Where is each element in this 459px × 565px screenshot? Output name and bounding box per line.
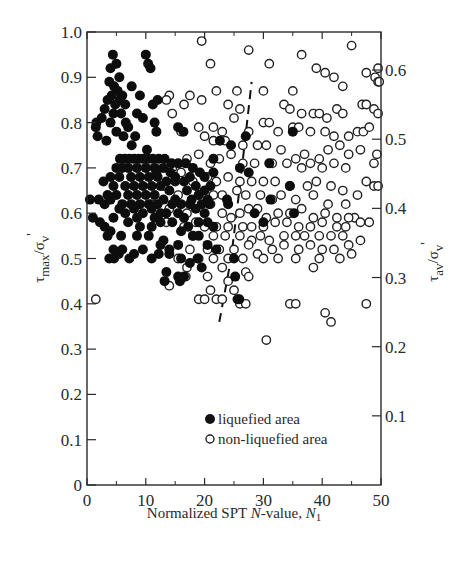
liquefied-point [244,167,254,177]
liquefied-point [132,190,142,200]
non-liquefied-point [245,46,253,54]
non-liquefied-point [262,336,270,344]
non-liquefied-point [92,295,100,303]
liquefied-point [265,195,275,205]
non-liquefied-point [247,177,255,185]
y-left-tick-label: 0.2 [61,385,82,404]
liquefied-point [229,254,239,264]
non-liquefied-point [209,232,217,240]
non-liquefied-point [344,132,352,140]
liquefied-point [132,231,142,241]
non-liquefied-point [256,191,264,199]
y-right-tick-label: 0.4 [385,199,407,218]
x-tick-label: 0 [83,491,92,510]
liquefied-point [91,122,101,132]
non-liquefied-point [200,295,208,303]
liquefied-point [126,172,136,182]
liquefied-point [130,131,140,141]
x-tick-label: 40 [314,491,331,510]
liquefied-point [120,99,130,109]
liquefied-point [147,222,157,232]
non-liquefied-point [342,200,350,208]
non-liquefied-point [356,146,364,154]
non-liquefied-point [236,177,244,185]
liquefied-point [106,118,116,128]
non-liquefied-point [306,241,314,249]
non-liquefied-point [318,164,326,172]
legend-filled-marker-icon [205,414,215,424]
non-liquefied-point [197,96,205,104]
liquefied-point [116,231,126,241]
liquefied-point [182,186,192,196]
liquefied-point [164,244,174,254]
liquefied-point [108,50,118,60]
liquefied-point [156,240,166,250]
y-left-tick-label: 0.4 [61,295,83,314]
non-liquefied-point [274,254,282,262]
non-liquefied-point [306,159,314,167]
liquefied-point [200,208,210,218]
y-left-tick-label: 0.5 [61,250,82,269]
legend-liquefied-label: liquefied area [218,411,300,427]
liquefied-point [142,145,152,155]
liquefied-point [138,113,148,123]
liquefied-point [101,136,111,146]
liquefied-point [141,50,151,60]
non-liquefied-point [206,60,214,68]
svg-text:τmax/σv': τmax/σv' [25,233,52,283]
non-liquefied-point [297,109,305,117]
non-liquefied-point [344,214,352,222]
non-liquefied-point [195,123,203,131]
non-liquefied-point [347,41,355,49]
liquefied-point [156,217,166,227]
liquefied-point [120,181,130,191]
non-liquefied-point [321,127,329,135]
liquefied-point [103,231,113,241]
non-liquefied-point [292,300,300,308]
liquefied-point [164,186,174,196]
liquefied-point [146,63,156,73]
non-liquefied-point [180,100,188,108]
non-liquefied-point [362,69,370,77]
liquefied-point [114,249,124,259]
non-liquefied-point [242,191,250,199]
liquefied-point [203,240,213,250]
non-liquefied-point [321,209,329,217]
liquefied-point [183,222,193,232]
non-liquefied-point [274,127,282,135]
non-liquefied-point [245,272,253,280]
non-liquefied-point [365,218,373,226]
y-left-tick-label: 0.6 [61,204,82,223]
liquefied-point [148,99,158,109]
non-liquefied-point [318,245,326,253]
liquefied-point [100,199,110,209]
non-liquefied-point [306,223,314,231]
liquefied-point [178,127,188,137]
liquefied-point [132,213,142,223]
liquefied-point [175,276,185,286]
non-liquefied-point [283,218,291,226]
liquefied-point [167,199,177,209]
y-left-tick-label: 0.7 [61,159,83,178]
y-left-axis-title: τmax/σv' [25,233,52,283]
liquefied-point [124,254,134,264]
y-left-tick-label: 1.0 [61,23,82,42]
scatter-chart: 01020304050 00.10.20.30.40.50.60.70.80.9… [0,0,459,565]
non-liquefied-point [344,241,352,249]
non-liquefied-point [271,177,279,185]
liquefied-point [230,272,240,282]
non-liquefied-point [221,232,229,240]
non-liquefied-point [327,182,335,190]
liquefied-point [191,181,201,191]
non-liquefied-point [315,254,323,262]
non-liquefied-point [218,263,226,271]
legend-non-liquefied-label: non-liquefied area [218,431,328,447]
non-liquefied-point [324,200,332,208]
liquefied-point [120,208,130,218]
liquefied-point [160,276,170,286]
liquefied-point [241,131,251,141]
liquefied-point [288,127,298,137]
non-liquefied-point [339,82,347,90]
non-liquefied-point [271,218,279,226]
non-liquefied-point [327,318,335,326]
